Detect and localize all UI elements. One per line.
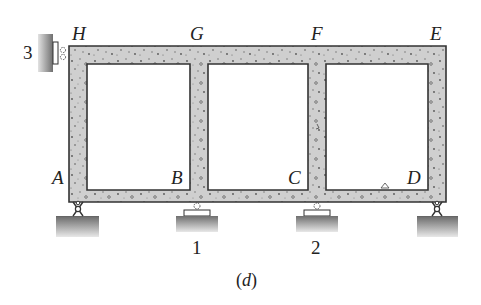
pin-support-a — [56, 201, 99, 237]
node-label-g: G — [190, 24, 204, 43]
support-2-label: 2 — [311, 238, 321, 257]
wall-support-label: 3 — [23, 43, 33, 62]
node-label-h: H — [72, 24, 86, 43]
node-label-e: E — [430, 24, 442, 43]
node-label-b: B — [171, 168, 183, 187]
figure-caption: (d) — [236, 271, 257, 289]
caption-close-paren: ) — [251, 270, 257, 290]
wall-support-3 — [38, 34, 66, 72]
node-label-c: C — [288, 168, 301, 187]
concrete-frame — [69, 46, 446, 202]
node-label-a: A — [52, 168, 64, 187]
frame-drawing — [0, 0, 481, 305]
plate-support-2 — [296, 203, 338, 232]
plate-support-1 — [176, 203, 218, 232]
node-label-f: F — [311, 24, 323, 43]
frame-diagram: H G F E A B C D 3 1 2 (d) — [0, 0, 481, 305]
caption-letter: d — [242, 270, 251, 290]
node-label-d: D — [407, 168, 421, 187]
support-1-label: 1 — [192, 238, 202, 257]
pin-support-d — [417, 201, 458, 237]
